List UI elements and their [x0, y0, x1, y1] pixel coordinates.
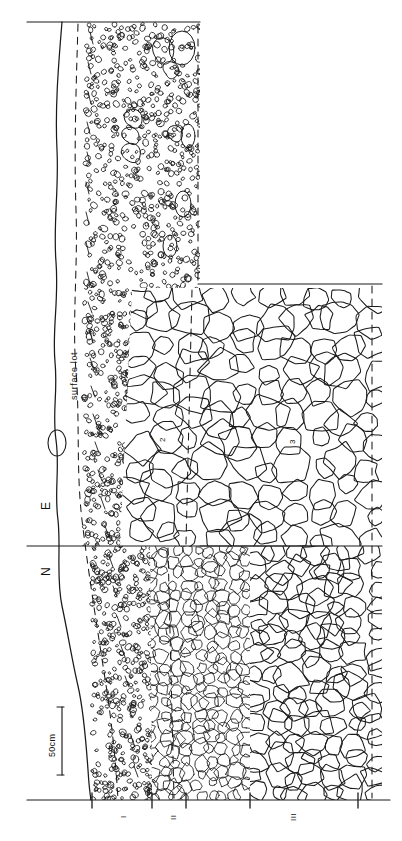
unit-I-stipple-upper	[83, 21, 204, 291]
unit-III-cobbles	[234, 535, 392, 808]
label-unit-2: 2	[159, 438, 167, 442]
label-roman-i: I	[120, 815, 128, 818]
label-scale-bar: 50cm	[48, 734, 57, 757]
stratigraphic-section-svg	[0, 0, 402, 841]
scale-bar	[57, 707, 64, 775]
frame-lines	[27, 22, 390, 800]
label-unit-3: 3	[289, 440, 297, 444]
label-surface-lot: surface lot	[70, 352, 79, 400]
drawing-ink	[27, 21, 401, 808]
unit-cobbles-middle	[116, 275, 401, 560]
label-direction-east: E	[40, 502, 52, 510]
contact-mid-dashed	[186, 290, 192, 544]
unit-II-cobbles	[141, 540, 256, 803]
unit-I-stipple-middle	[81, 286, 140, 550]
unit-I-stipple-lower	[89, 541, 159, 804]
label-roman-iii: III	[290, 813, 298, 821]
figure-canvas: surface lot E N 50cm 2 3 I II III	[0, 0, 402, 841]
label-roman-ii: II	[170, 815, 178, 820]
label-direction-north: N	[40, 567, 52, 576]
